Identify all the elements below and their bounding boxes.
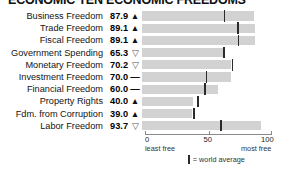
freedom-bar-track (142, 22, 285, 34)
freedom-label: Financial Freedom (0, 84, 106, 94)
axis-tick-label: 100 (261, 136, 274, 144)
freedom-bar (142, 72, 231, 81)
freedom-score: 70.2 (106, 60, 128, 70)
freedom-bar (142, 97, 193, 106)
freedom-bar-track (142, 47, 285, 59)
trend-up-icon: ▲ (128, 35, 142, 45)
freedom-score: 70.0 (106, 72, 128, 82)
trend-down-icon: ▽ (128, 48, 142, 58)
axis-tick-label: 0 (145, 136, 149, 144)
freedom-label: Fdm. from Corruption (0, 109, 106, 119)
trend-up-icon: ▲ (128, 23, 142, 33)
world-average-marker (206, 71, 208, 83)
freedom-score: 93.7 (106, 121, 128, 131)
freedom-bar (142, 109, 192, 118)
freedom-score: 89.1 (106, 35, 128, 45)
freedom-bar-track (142, 10, 285, 22)
trend-flat-icon: — (128, 84, 142, 94)
freedom-label: Business Freedom (0, 11, 106, 21)
trend-up-icon: ▲ (128, 109, 142, 119)
freedom-bar-track (142, 83, 285, 95)
economic-freedoms-chart: ECONOMIC TEN ECONOMIC FREEDOMS Business … (0, 0, 285, 172)
freedom-row: Monetary Freedom70.2▽ (0, 59, 285, 71)
world-average-marker (237, 22, 239, 34)
vertical-bar-icon (188, 155, 190, 164)
freedom-bar (142, 11, 254, 20)
world-average-marker (223, 47, 225, 59)
freedom-score: 89.1 (106, 23, 128, 33)
freedom-row: Fdm. from Corruption39.0▲ (0, 108, 285, 120)
freedom-row: Property Rights40.0▲ (0, 95, 285, 107)
freedom-label: Labor Freedom (0, 121, 106, 131)
freedom-bar (142, 48, 225, 57)
freedom-rows: Business Freedom87.9▲Trade Freedom89.1▲F… (0, 10, 285, 132)
freedom-row: Government Spending65.3▽ (0, 47, 285, 59)
freedom-label: Investment Freedom (0, 72, 106, 82)
freedom-row: Fiscal Freedom89.1▲ (0, 34, 285, 46)
freedom-label: Fiscal Freedom (0, 35, 106, 45)
trend-up-icon: ▲ (128, 96, 142, 106)
freedom-label: Property Rights (0, 96, 106, 106)
freedom-bar-track (142, 71, 285, 83)
freedom-label: Trade Freedom (0, 23, 106, 33)
freedom-label: Government Spending (0, 48, 106, 58)
freedom-label: Monetary Freedom (0, 60, 106, 70)
world-average-marker (197, 96, 199, 108)
axis-most-free-label: most free (241, 145, 271, 153)
freedom-score: 65.3 (106, 48, 128, 58)
freedom-score: 87.9 (106, 11, 128, 21)
freedom-bar (142, 121, 261, 130)
world-average-marker (204, 83, 206, 95)
world-average-marker (224, 10, 226, 22)
freedom-bar-track (142, 108, 285, 120)
trend-up-icon: ▲ (128, 11, 142, 21)
axis-tick-label: 50 (204, 136, 212, 144)
freedom-row: Trade Freedom89.1▲ (0, 22, 285, 34)
freedom-bar (142, 60, 231, 69)
freedom-score: 60.0 (106, 84, 128, 94)
freedom-row: Investment Freedom70.0— (0, 71, 285, 83)
trend-flat-icon: — (128, 72, 142, 82)
world-average-marker (220, 120, 222, 132)
freedom-bar-track (142, 34, 285, 46)
legend: = world average (188, 155, 245, 164)
freedom-bar-track (142, 59, 285, 71)
freedom-row: Business Freedom87.9▲ (0, 10, 285, 22)
trend-down-icon: ▽ (128, 121, 142, 131)
freedom-bar-track (142, 95, 285, 107)
freedom-row: Financial Freedom60.0— (0, 83, 285, 95)
freedom-score: 40.0 (106, 96, 128, 106)
world-average-marker (232, 59, 234, 71)
legend-label: = world average (193, 156, 245, 164)
world-average-marker (238, 35, 240, 47)
freedom-score: 39.0 (106, 109, 128, 119)
page-title: ECONOMIC TEN ECONOMIC FREEDOMS (8, 0, 246, 7)
world-average-marker (193, 108, 195, 120)
trend-down-icon: ▽ (128, 60, 142, 70)
axis-least-free-label: least free (145, 145, 175, 153)
freedom-bar (142, 85, 218, 94)
axis-tick-labels: 050100least freemost free (139, 136, 285, 145)
